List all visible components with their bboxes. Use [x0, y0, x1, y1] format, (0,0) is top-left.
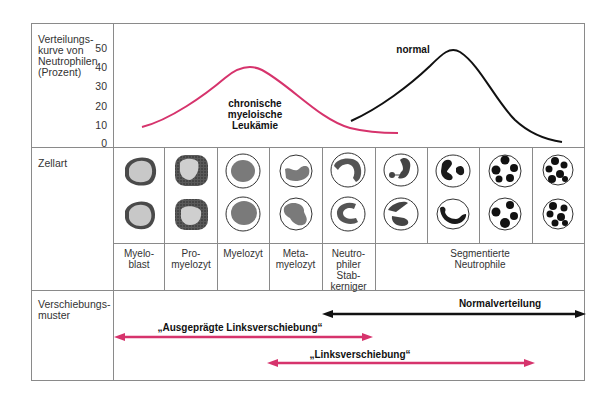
- pronounced-left-shift-label: „Ausgeprägte Linksverschiebung“: [140, 322, 340, 333]
- label-line: kerniger: [322, 281, 375, 292]
- label-line: Myelo-: [114, 248, 164, 259]
- promyelozyt-cells: [175, 155, 208, 230]
- left-shift-arrow: [267, 359, 535, 367]
- band-neutrophil-cells: [331, 153, 365, 231]
- label-line: Segmentierte: [375, 248, 585, 259]
- normal-curve-label: normal: [388, 44, 438, 55]
- myelozyt-cells: [226, 154, 260, 231]
- label-line: Myelozyt: [217, 248, 269, 259]
- normal-distribution-arrow: [322, 310, 586, 318]
- pronounced-left-shift-arrow: [114, 333, 373, 341]
- cell-name-segmented-neutrophils: Segmentierte Neutrophile: [375, 248, 585, 270]
- label-line: Pro-: [165, 248, 217, 259]
- cell-name-metamyelozyt: Meta- myelozyt: [269, 248, 322, 270]
- label-line: Meta-: [269, 248, 322, 259]
- diagram-graphics: [0, 0, 615, 394]
- label-line: blast: [114, 259, 164, 270]
- cml-curve-label: chronische myeloische Leukämie: [210, 98, 300, 131]
- label-line: myeloische: [210, 109, 300, 120]
- metamyelozyt-cells: [280, 155, 312, 230]
- normal-distribution-label: Normalverteilung: [420, 298, 580, 309]
- segmented-neutrophil-cells-1: [384, 154, 418, 230]
- myeloblast-cells: [125, 157, 156, 229]
- label-line: Leukämie: [210, 120, 300, 131]
- label-line: myelozyt: [165, 259, 217, 270]
- segmented-neutrophil-cells-2: [436, 155, 470, 229]
- segmented-neutrophil-cells-3: [489, 155, 521, 230]
- cell-name-myeloblast: Myelo- blast: [114, 248, 164, 270]
- label-line: Neutrophile: [375, 259, 585, 270]
- label-line: chronische: [210, 98, 300, 109]
- label-line: Neutro-: [322, 248, 375, 259]
- cell-name-promyelozyt: Pro- myelozyt: [165, 248, 217, 270]
- cell-name-band-neutrophil: Neutro- philer Stab- kerniger: [322, 248, 375, 292]
- left-shift-label: „Linksverschiebung“: [300, 349, 420, 360]
- cell-name-myelozyt: Myelozyt: [217, 248, 269, 259]
- label-line: Stab-: [322, 270, 375, 281]
- normal-curve: [351, 50, 562, 142]
- segmented-neutrophil-cells-4: [543, 155, 573, 229]
- label-line: philer: [322, 259, 375, 270]
- label-line: myelozyt: [269, 259, 322, 270]
